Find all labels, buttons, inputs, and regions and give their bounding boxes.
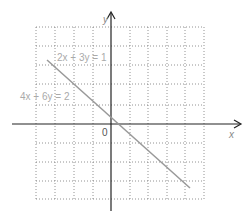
x-axis-label: x — [228, 129, 235, 140]
coordinate-plane: x y 0 2x + 3y = 1 4x + 6y = 2 — [0, 0, 251, 219]
equation-label-1: 2x + 3y = 1 — [57, 52, 107, 63]
x-axis — [12, 120, 241, 128]
equation-label-2: 4x + 6y = 2 — [20, 91, 70, 102]
y-axis-label: y — [102, 14, 109, 25]
origin-label: 0 — [102, 127, 108, 138]
